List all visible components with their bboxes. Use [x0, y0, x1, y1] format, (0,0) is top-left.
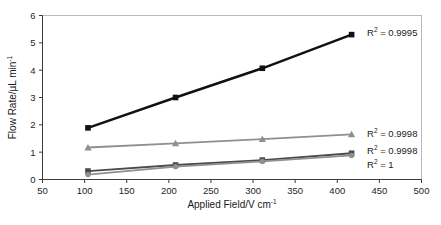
r-value: = 0.9998 — [378, 145, 418, 156]
data-point-circle — [173, 164, 178, 169]
x-tick-label: 300 — [245, 185, 261, 196]
data-point-square — [260, 65, 266, 71]
r-value: = 0.9998 — [378, 128, 418, 139]
x-tick-label: 50 — [37, 185, 48, 196]
chart-figure: 0123456 50100150200250300350400450500 R2… — [0, 0, 441, 225]
y-tick-label: 1 — [30, 147, 35, 158]
x-tick-label: 250 — [203, 185, 219, 196]
svg-text:Applied Field/V cm-1: Applied Field/V cm-1 — [187, 198, 277, 210]
data-point-square — [85, 125, 91, 131]
x-axis-title: Applied Field/V cm-1 — [187, 198, 277, 210]
r-value: = 0.9995 — [378, 27, 418, 38]
y-axis-title: Flow Rate/µL min-1 — [6, 55, 18, 139]
data-point-square — [349, 32, 355, 38]
data-point-square — [173, 95, 179, 101]
x-tick-label: 450 — [371, 185, 387, 196]
x-axis-title-superscript: -1 — [271, 198, 277, 205]
x-axis-title-text: Applied Field/V cm — [187, 199, 270, 210]
x-tick-label: 150 — [119, 185, 135, 196]
y-tick-label: 5 — [30, 37, 35, 48]
r-value: = 1 — [378, 159, 394, 170]
data-point-circle — [260, 159, 265, 164]
y-tick-label: 4 — [30, 65, 35, 76]
y-axis-title-text: Flow Rate/µL min — [7, 62, 18, 140]
y-tick-label: 2 — [30, 119, 35, 130]
y-axis-title-superscript: -1 — [6, 55, 13, 61]
data-point-circle — [85, 172, 90, 177]
data-point-circle — [349, 153, 354, 158]
x-tick-label: 500 — [414, 185, 430, 196]
flow-rate-vs-applied-field-chart: 0123456 50100150200250300350400450500 R2… — [0, 0, 441, 225]
y-tick-label: 6 — [30, 10, 35, 21]
y-tick-label: 0 — [30, 174, 35, 185]
x-tick-label: 400 — [329, 185, 345, 196]
x-tick-label: 100 — [77, 185, 93, 196]
svg-text:Flow Rate/µL min-1: Flow Rate/µL min-1 — [6, 55, 18, 139]
y-tick-label: 3 — [30, 92, 35, 103]
x-tick-label: 350 — [287, 185, 303, 196]
r-squared-annotation: R2 = 1 — [367, 158, 394, 170]
x-tick-label: 200 — [161, 185, 177, 196]
